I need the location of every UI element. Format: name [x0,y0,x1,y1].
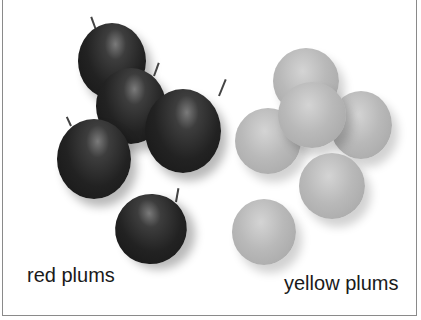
yellow-plum [299,153,365,219]
plum-stem [153,63,160,77]
yellow-plum [278,82,346,148]
plum-stem [175,188,179,202]
red-plum [105,184,197,274]
red-plums-label: red plums [27,264,115,287]
red-plum [145,89,221,173]
yellow-plum [232,199,296,265]
plum-stem [218,79,227,96]
yellow-plums-label: yellow plums [284,272,398,295]
red-plum [57,119,131,199]
plum-stem [66,117,72,127]
image-frame: red plums yellow plums [2,0,417,316]
